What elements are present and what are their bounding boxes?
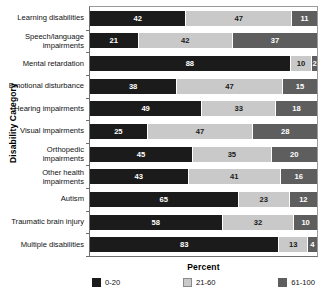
legend-label: 61-100 xyxy=(291,278,315,287)
category-label: Traumatic brain injury xyxy=(6,217,90,226)
category-label: Emotional disturbance xyxy=(6,82,90,91)
bar-segment: 88 xyxy=(90,56,290,71)
legend-swatch-icon xyxy=(92,278,101,287)
bar-value-label: 15 xyxy=(296,82,304,91)
chart-row: Speech/language impairments214237 xyxy=(90,30,317,53)
stacked-bar: 652312 xyxy=(90,192,317,207)
bar-segment: 10 xyxy=(294,215,317,230)
legend-swatch-icon xyxy=(183,278,192,287)
legend-item[interactable]: 61-100 xyxy=(278,278,315,287)
chart-legend: 0-2021-6061-100 xyxy=(89,278,318,287)
bar-value-label: 42 xyxy=(181,36,189,45)
legend-swatch-icon xyxy=(278,278,287,287)
bar-value-label: 33 xyxy=(234,104,242,113)
chart-row: Visual impairments254728 xyxy=(90,120,317,143)
chart-row: Autism652312 xyxy=(90,188,317,211)
category-label: Hearing impairments xyxy=(6,104,90,113)
category-label: Speech/language impairments xyxy=(6,32,90,50)
category-label: Autism xyxy=(6,195,90,204)
chart-row: Other health impairments434116 xyxy=(90,165,317,188)
bar-segment: 32 xyxy=(222,215,295,230)
chart-row: Hearing impairments493318 xyxy=(90,98,317,121)
plot-area: Learning disabilities424711Speech/langua… xyxy=(89,6,318,257)
bar-segment: 42 xyxy=(138,33,233,48)
bar-value-label: 21 xyxy=(110,36,118,45)
category-label: Orthopedic impairments xyxy=(6,145,90,163)
stacked-bar: 83134 xyxy=(90,237,317,252)
bar-value-label: 47 xyxy=(225,82,233,91)
bar-segment: 28 xyxy=(253,124,317,139)
chart-row: Multiple disabilities83134 xyxy=(90,233,317,256)
bar-segment: 21 xyxy=(90,33,138,48)
bar-value-label: 13 xyxy=(289,240,297,249)
bar-value-label: 47 xyxy=(234,14,242,23)
x-axis-title: Percent xyxy=(89,262,318,272)
bar-value-label: 10 xyxy=(301,218,309,227)
bar-segment: 43 xyxy=(90,169,188,184)
bar-segment: 37 xyxy=(233,33,317,48)
bar-segment: 18 xyxy=(276,101,317,116)
stacked-bar: 453520 xyxy=(90,147,317,162)
category-label: Other health impairments xyxy=(6,168,90,186)
bar-value-label: 35 xyxy=(228,150,236,159)
bar-value-label: 4 xyxy=(310,240,314,249)
chart-row: Orthopedic impairments453520 xyxy=(90,143,317,166)
bar-segment: 41 xyxy=(188,169,281,184)
stacked-bar: 384715 xyxy=(90,79,317,94)
category-label: Multiple disabilities xyxy=(6,240,90,249)
bar-value-label: 65 xyxy=(160,195,168,204)
bar-segment: 23 xyxy=(238,192,290,207)
bar-value-label: 49 xyxy=(141,104,149,113)
bar-value-label: 12 xyxy=(299,195,307,204)
bar-segment: 16 xyxy=(281,169,317,184)
bar-value-label: 88 xyxy=(186,59,194,68)
stacked-bar: 424711 xyxy=(90,11,317,26)
legend-item[interactable]: 0-20 xyxy=(92,278,120,287)
bar-value-label: 45 xyxy=(137,150,145,159)
bar-segment: 35 xyxy=(192,147,271,162)
bar-segment: 42 xyxy=(90,11,185,26)
bar-value-label: 41 xyxy=(230,172,238,181)
y-axis-tick xyxy=(86,256,90,257)
stacked-bar: 214237 xyxy=(90,33,317,48)
legend-item[interactable]: 21-60 xyxy=(183,278,215,287)
bar-segment: 33 xyxy=(201,101,276,116)
category-label: Visual impairments xyxy=(6,127,90,136)
category-label: Mental retardation xyxy=(6,59,90,68)
bar-segment: 10 xyxy=(290,56,313,71)
bar-value-label: 83 xyxy=(180,240,188,249)
bar-segment: 12 xyxy=(290,192,317,207)
bar-segment: 47 xyxy=(147,124,254,139)
chart-row: Emotional disturbance384715 xyxy=(90,75,317,98)
chart-row: Traumatic brain injury583210 xyxy=(90,211,317,234)
bar-segment: 45 xyxy=(90,147,192,162)
bar-value-label: 11 xyxy=(300,14,308,23)
stacked-bar: 583210 xyxy=(90,215,317,230)
bar-value-label: 18 xyxy=(292,104,300,113)
bar-value-label: 47 xyxy=(196,127,204,136)
bar-rows: Learning disabilities424711Speech/langua… xyxy=(90,7,317,256)
bar-value-label: 58 xyxy=(152,218,160,227)
bar-value-label: 23 xyxy=(259,195,267,204)
legend-label: 0-20 xyxy=(105,278,120,287)
bar-value-label: 37 xyxy=(271,36,279,45)
bar-segment: 83 xyxy=(90,237,278,252)
chart-row: Mental retardation88102 xyxy=(90,52,317,75)
stacked-bar: 254728 xyxy=(90,124,317,139)
bar-value-label: 32 xyxy=(254,218,262,227)
bar-value-label: 16 xyxy=(295,172,303,181)
legend-label: 21-60 xyxy=(196,278,215,287)
bar-segment: 65 xyxy=(90,192,238,207)
bar-segment: 2 xyxy=(312,56,317,71)
category-label: Learning disabilities xyxy=(6,14,90,23)
bar-segment: 47 xyxy=(185,11,292,26)
bar-segment: 47 xyxy=(176,79,283,94)
bar-value-label: 38 xyxy=(129,82,137,91)
stacked-bar: 493318 xyxy=(90,101,317,116)
bar-value-label: 25 xyxy=(114,127,122,136)
stacked-bar: 88102 xyxy=(90,56,317,71)
bar-segment: 13 xyxy=(278,237,308,252)
bar-value-label: 2 xyxy=(313,59,317,68)
bar-value-label: 43 xyxy=(135,172,143,181)
bar-segment: 25 xyxy=(90,124,147,139)
